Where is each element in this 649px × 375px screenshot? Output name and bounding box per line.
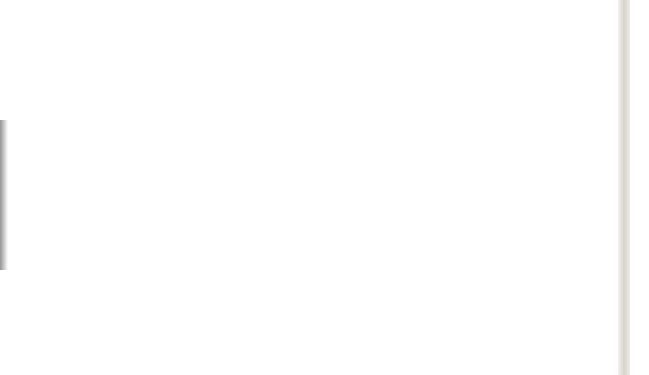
adjacent-page-edge <box>618 0 649 375</box>
page-paper-edge <box>618 0 630 375</box>
gores-svg <box>0 0 649 375</box>
globe-gores-map <box>0 0 649 375</box>
page-fold-shadow <box>0 120 8 270</box>
